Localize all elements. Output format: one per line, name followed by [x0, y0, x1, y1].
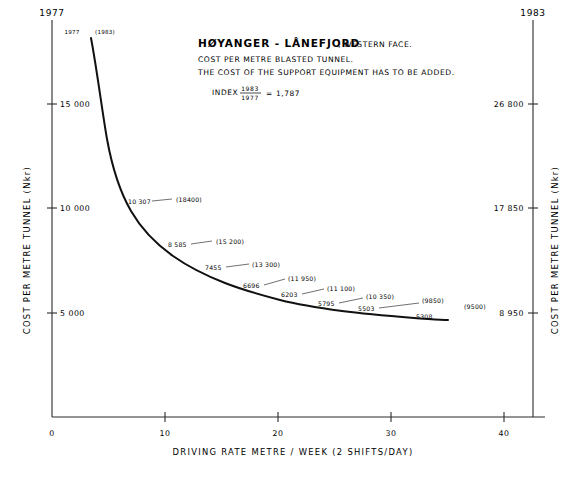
data-label-1983-2: (13 300)	[252, 261, 280, 268]
data-label-1983-3: (11 950)	[288, 275, 316, 282]
right-tick-label-26800: 26 800	[494, 100, 524, 109]
right-tick-label-8950: 8 950	[499, 309, 524, 318]
left-axis-year: 1977	[39, 8, 64, 18]
leader-line-3	[264, 279, 285, 285]
data-label-1977-6: 5503	[358, 305, 375, 312]
tunnel-cost-chart: 15 000 10 000 5 000 26 800 17 850 8 950 …	[0, 0, 586, 478]
x-tick-label-40: 40	[499, 429, 510, 438]
left-tick-label-10000: 10 000	[60, 204, 90, 213]
data-label-1983-7: (9500)	[464, 303, 486, 310]
index-denominator: 1977	[241, 94, 259, 101]
cost-curve	[91, 38, 448, 320]
series-header-1983: (1983)	[95, 29, 115, 35]
chart-subtitle-2: THE COST OF THE SUPPORT EQUIPMENT HAS TO…	[197, 68, 455, 77]
x-tick-label-10: 10	[160, 429, 171, 438]
data-label-1983-0: (18400)	[176, 196, 202, 203]
data-label-1977-5: 5795	[318, 300, 335, 307]
index-value: 1,787	[276, 89, 300, 98]
x-tick-label-30: 30	[386, 429, 397, 438]
leader-line-1	[191, 241, 212, 244]
chart-page: 15 000 10 000 5 000 26 800 17 850 8 950 …	[0, 0, 586, 478]
right-axis-title: COST PER METRE TUNNEL (Nkr)	[550, 166, 560, 334]
data-label-1977-3: 6696	[243, 282, 260, 289]
chart-title-main-rest: , WESTERN FACE.	[338, 40, 412, 49]
left-tick-label-15000: 15 000	[60, 100, 90, 109]
data-label-1983-4: (11 100)	[327, 285, 355, 292]
leader-line-5	[339, 298, 363, 303]
data-label-1977-7: 5308	[416, 313, 433, 320]
leader-line-0	[152, 199, 172, 201]
data-label-1977-1: 8 585	[168, 241, 187, 248]
right-axis-year: 1983	[520, 8, 545, 18]
data-label-1977-2: 7455	[205, 264, 222, 271]
x-tick-label-0: 0	[49, 429, 54, 438]
x-tick-label-20: 20	[273, 429, 284, 438]
index-numerator: 1983	[241, 85, 259, 92]
leader-line-4	[302, 289, 324, 294]
left-axis-title: COST PER METRE TUNNEL (Nkr)	[22, 166, 32, 334]
leader-line-2	[226, 264, 249, 267]
index-equals: =	[266, 89, 273, 98]
left-tick-label-5000: 5 000	[60, 309, 85, 318]
data-label-1977-0: 10 307	[128, 198, 151, 205]
series-header-1977: 1977	[64, 29, 79, 35]
data-label-1983-1: (15 200)	[216, 238, 244, 245]
x-axis-title: DRIVING RATE METRE / WEEK (2 SHIFTS/DAY)	[173, 447, 414, 457]
leader-line-6	[379, 303, 419, 308]
index-label: INDEX	[212, 88, 238, 97]
chart-title-main: HØYANGER - LÅNEFJORD	[198, 37, 360, 49]
data-label-1983-6: (9850)	[422, 297, 444, 304]
chart-subtitle-1: COST PER METRE BLASTED TUNNEL.	[198, 55, 354, 64]
data-label-1977-4: 6203	[281, 291, 298, 298]
right-tick-label-17850: 17 850	[494, 204, 524, 213]
data-label-1983-5: (10 350)	[366, 293, 394, 300]
